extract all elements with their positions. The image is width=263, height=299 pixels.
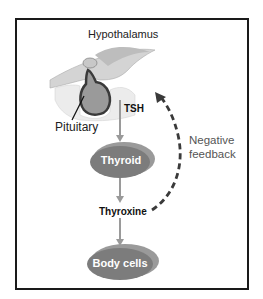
negative-feedback-arrow	[152, 92, 180, 210]
thyroxine-label: Thyroxine	[99, 206, 147, 217]
hypothalamus-label: Hypothalamus	[88, 28, 158, 40]
thyroid-label: Thyroid	[90, 154, 152, 166]
negative-feedback-label: Negative feedback	[189, 133, 236, 161]
thyroid-to-thyroxine-arrow	[116, 178, 124, 203]
pituitary-label: Pituitary	[55, 120, 98, 134]
feedback-line-1: Negative	[189, 133, 236, 147]
tsh-label: TSH	[124, 103, 144, 114]
body-cells-label: Body cells	[85, 257, 155, 269]
feedback-line-2: feedback	[189, 147, 236, 161]
thyroxine-to-body-arrow	[116, 218, 124, 246]
